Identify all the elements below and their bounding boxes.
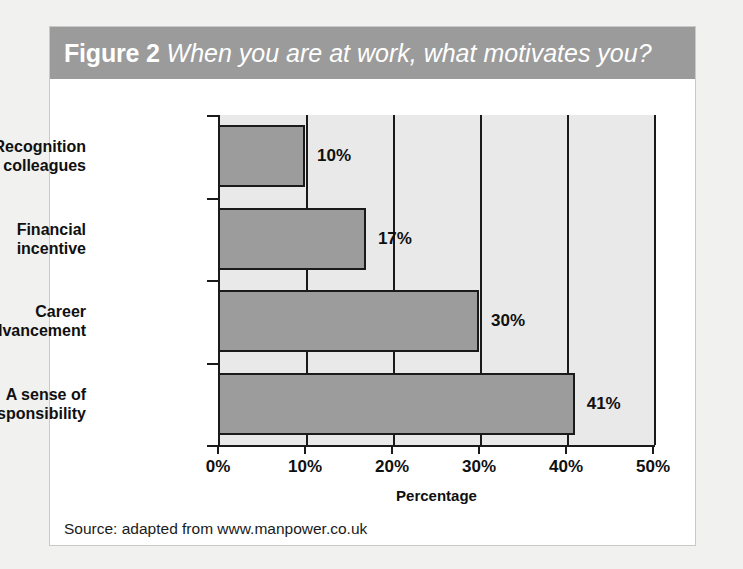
x-tick-label: 0% (206, 457, 231, 477)
x-tick-label: 40% (549, 457, 583, 477)
category-label-line: Career (0, 302, 86, 321)
bar-row: 10% (218, 125, 653, 187)
category-label: Financialincentive (17, 220, 86, 258)
bar (218, 208, 366, 270)
x-tick-50pct (652, 445, 654, 454)
x-tick-30pct (478, 445, 480, 454)
gridline-50pct (654, 115, 656, 445)
figure-number: Figure 2 (64, 39, 160, 67)
x-axis-line (218, 445, 655, 447)
y-tick (207, 115, 218, 117)
x-tick-label: 50% (636, 457, 670, 477)
y-tick (207, 445, 218, 447)
bar (218, 125, 305, 187)
bar-row: 30% (218, 290, 653, 352)
category-label: Careeradvancement (0, 302, 86, 340)
bar (218, 290, 479, 352)
x-tick-label: 30% (462, 457, 496, 477)
figure-question: When you are at work, what motivates you… (167, 39, 652, 67)
x-axis-title: Percentage (218, 487, 655, 504)
category-label-line: from colleagues (0, 156, 86, 175)
y-tick (207, 363, 218, 365)
bar-row: 17% (218, 208, 653, 270)
bar-value-label: 10% (317, 146, 351, 166)
category-label-line: A sense of (0, 385, 86, 404)
bar-value-label: 17% (378, 229, 412, 249)
x-tick-label: 20% (375, 457, 409, 477)
category-label-line: Financial (17, 220, 86, 239)
category-label: A sense ofresponsibility (0, 385, 86, 423)
category-label-line: Recognition (0, 137, 86, 156)
figure-page: Figure 2 When you are at work, what moti… (0, 0, 743, 569)
bar-chart: 10%17%30%41% Recognitionfrom colleaguesF… (50, 79, 695, 545)
y-tick (207, 198, 218, 200)
category-label: Recognitionfrom colleagues (0, 137, 86, 175)
bar-value-label: 30% (491, 311, 525, 331)
bar-value-label: 41% (587, 394, 621, 414)
x-tick-label: 10% (288, 457, 322, 477)
category-label-line: responsibility (0, 404, 86, 423)
figure-header-band: Figure 2 When you are at work, what moti… (50, 27, 695, 79)
x-tick-40pct (565, 445, 567, 454)
category-label-line: advancement (0, 321, 86, 340)
category-label-line: incentive (17, 239, 86, 258)
y-tick (207, 280, 218, 282)
bar (218, 373, 575, 435)
x-tick-10pct (304, 445, 306, 454)
figure-card: Figure 2 When you are at work, what moti… (50, 27, 695, 545)
bar-row: 41% (218, 373, 653, 435)
x-tick-20pct (391, 445, 393, 454)
figure-title: Figure 2 When you are at work, what moti… (64, 37, 652, 69)
source-note: Source: adapted from www.manpower.co.uk (64, 520, 367, 538)
